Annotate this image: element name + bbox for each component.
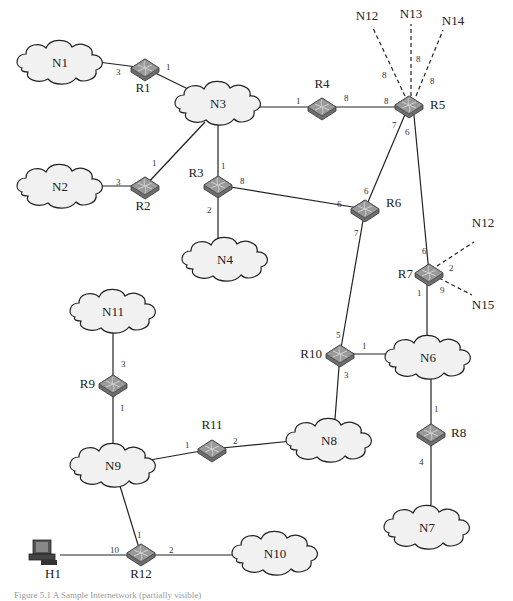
network-label: N6: [420, 350, 436, 365]
external-network-label: N12: [356, 8, 378, 23]
router-r12: R12: [127, 544, 155, 581]
link-r3-r6: [218, 185, 365, 209]
host-label: H1: [45, 566, 61, 581]
port-label: 6: [422, 246, 427, 256]
port-label: 7: [392, 120, 397, 130]
port-label: 6: [364, 186, 369, 196]
network-label: N9: [105, 458, 121, 473]
network-label: N11: [102, 304, 124, 319]
port-label: 6: [337, 199, 342, 209]
network-label: N8: [321, 433, 337, 448]
router-label: R6: [386, 195, 402, 210]
router-label: R10: [300, 346, 322, 361]
router-r2: R2: [131, 177, 159, 213]
port-label: 1: [120, 403, 125, 413]
port-label: 4: [419, 457, 424, 467]
network-n7: N7: [384, 505, 469, 549]
network-n3: N3: [175, 81, 260, 125]
link-r5-n12: [372, 26, 405, 96]
router-label: R2: [135, 198, 150, 213]
port-labels-layer: 3 1 3 1 1 8 2 1 8 8 8 8 8 7 6 6 6 7 6 2 …: [110, 54, 454, 555]
port-label: 1: [152, 158, 157, 168]
figure-caption: Figure 5.1 A Sample Internetwork (partia…: [14, 590, 201, 600]
router-r4: R4: [308, 76, 336, 120]
router-icon: [99, 375, 127, 397]
port-label: 1: [296, 96, 301, 106]
router-r9: R9: [80, 375, 127, 397]
port-label: 1: [166, 62, 171, 72]
router-label: R1: [135, 80, 150, 95]
router-icon: [351, 200, 379, 222]
router-r8: R8: [417, 424, 466, 446]
hosts-layer: H1: [29, 540, 61, 581]
port-label: 1: [137, 530, 142, 540]
link-r7-n12: [437, 242, 474, 266]
port-label: 10: [110, 545, 120, 555]
port-label: 2: [449, 263, 454, 273]
router-label: R5: [430, 97, 445, 112]
router-label: R8: [451, 425, 466, 440]
network-n9: N9: [70, 443, 155, 487]
port-label: 3: [121, 359, 126, 369]
external-network-label: N14: [442, 13, 465, 28]
network-n10: N10: [232, 531, 317, 575]
router-label: R7: [398, 266, 414, 281]
port-label: 3: [344, 370, 349, 380]
computer-icon: [29, 540, 57, 565]
router-icon: [395, 96, 423, 118]
network-n2: N2: [17, 164, 102, 208]
port-label: 8: [430, 76, 435, 86]
router-icon: [417, 424, 445, 446]
port-label: 1: [417, 288, 422, 298]
router-label: R9: [80, 376, 95, 391]
port-label: 1: [185, 440, 190, 450]
router-r10: R10: [300, 345, 354, 367]
router-icon: [131, 59, 159, 81]
host-h1: H1: [29, 540, 61, 581]
port-label: 8: [382, 70, 387, 80]
port-label: 8: [344, 93, 349, 103]
port-label: 6: [405, 127, 410, 137]
port-label: 2: [169, 545, 174, 555]
router-r6: R6: [351, 195, 402, 222]
router-label: R3: [188, 165, 203, 180]
network-n11: N11: [70, 289, 155, 333]
router-icon: [415, 264, 443, 286]
port-label: 5: [336, 330, 341, 340]
router-label: R4: [314, 76, 330, 91]
link-r5-r7: [413, 105, 429, 273]
router-r11: R11: [198, 417, 226, 462]
port-label: 8: [416, 54, 421, 64]
port-label: 1: [221, 161, 226, 171]
network-n4: N4: [182, 237, 267, 281]
network-n8: N8: [286, 418, 371, 462]
network-n1: N1: [17, 40, 102, 84]
router-icon: [326, 345, 354, 367]
network-label: N4: [217, 252, 233, 267]
port-label: 1: [434, 404, 439, 414]
port-label: 1: [362, 341, 367, 351]
router-r1: R1: [131, 59, 159, 95]
external-network-label: N15: [472, 297, 494, 312]
network-label: N10: [264, 546, 286, 561]
port-label: 2: [233, 436, 238, 446]
port-label: 8: [384, 96, 389, 106]
port-label: 3: [116, 177, 121, 187]
router-icon: [198, 440, 226, 462]
router-icon: [204, 176, 232, 198]
router-r5: R5: [395, 96, 445, 118]
external-network-label: N13: [400, 6, 422, 21]
network-label: N2: [52, 179, 68, 194]
network-label: N3: [210, 96, 226, 111]
network-label: N7: [419, 520, 435, 535]
external-network-label: N12: [472, 215, 494, 230]
link-r6-r10: [340, 209, 365, 354]
port-label: 7: [354, 228, 359, 238]
link-r5-r6: [365, 105, 409, 209]
port-label: 8: [240, 176, 245, 186]
network-diagram: N1 N2 N3 N4 N6 N7 N8 N9 N10 N11 R1 R2 R3…: [0, 0, 513, 601]
router-label: R12: [130, 566, 152, 581]
network-label: N1: [52, 55, 68, 70]
router-icon: [131, 177, 159, 199]
network-n6: N6: [385, 335, 470, 379]
